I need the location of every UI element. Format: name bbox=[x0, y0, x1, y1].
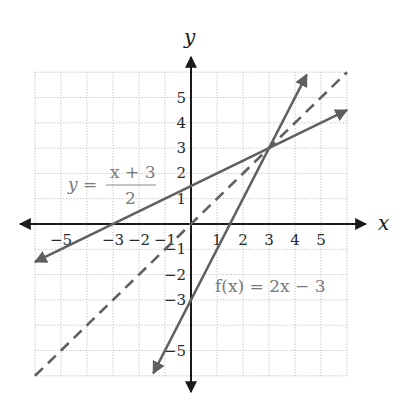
y-tick-label: 5 bbox=[176, 89, 186, 107]
x-tick-label: 2 bbox=[238, 231, 248, 249]
x-tick-label: 5 bbox=[316, 231, 326, 249]
y-axis-label: y bbox=[183, 25, 196, 49]
equation-label-line2: f(x) = 2x − 3 bbox=[215, 276, 325, 296]
x-tick-label: 4 bbox=[290, 231, 300, 249]
y-tick-label: 4 bbox=[176, 114, 186, 132]
svg-text:x + 3: x + 3 bbox=[110, 162, 155, 182]
y-tick-label: 3 bbox=[176, 139, 186, 157]
coordinate-plane-chart: x y −5−3−2−11234554321−1−2−3−5 y = x + 3… bbox=[0, 0, 415, 412]
svg-text:y =: y = bbox=[67, 174, 97, 194]
eq1-lhs: y = bbox=[67, 174, 97, 194]
eq1-numerator: x + 3 bbox=[110, 162, 155, 182]
x-tick-label: −2 bbox=[128, 231, 150, 249]
y-tick-label: 2 bbox=[176, 164, 186, 182]
y-tick-label: −1 bbox=[164, 240, 186, 258]
y-tick-label: −2 bbox=[164, 266, 186, 284]
eq1-denominator: 2 bbox=[125, 188, 136, 208]
y-tick-label: −3 bbox=[164, 291, 186, 309]
x-axis-label: x bbox=[378, 211, 389, 235]
x-tick-label: −3 bbox=[102, 231, 124, 249]
svg-text:2: 2 bbox=[125, 188, 136, 208]
x-tick-label: 3 bbox=[264, 231, 274, 249]
equation-label-line1: y = x + 3 2 bbox=[67, 162, 156, 208]
